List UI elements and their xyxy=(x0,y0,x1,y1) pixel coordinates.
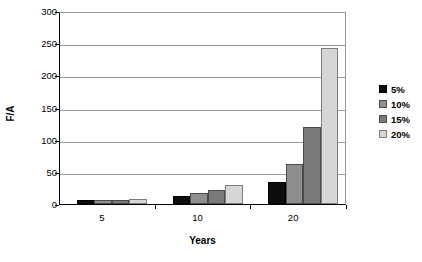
y-tick-label: 150 xyxy=(25,104,57,113)
plot-inner xyxy=(60,13,345,204)
legend-swatch-icon xyxy=(379,100,387,108)
y-tick-label: 300 xyxy=(25,7,57,16)
bar-20pct-year-10 xyxy=(225,185,243,204)
y-tick-mark xyxy=(55,109,59,110)
legend-label: 5% xyxy=(391,85,405,94)
bar-5pct-year-10 xyxy=(173,196,191,204)
y-tick-mark xyxy=(55,44,59,45)
x-tick-label: 20 xyxy=(273,212,313,223)
gridline xyxy=(60,77,345,78)
bar-20pct-year-5 xyxy=(129,199,147,204)
plot-area xyxy=(59,12,346,205)
bar-chart: F/A 050100150200250300 51020 Years 5%10%… xyxy=(0,0,422,262)
bar-15pct-year-10 xyxy=(208,190,226,204)
gridline xyxy=(60,45,345,46)
x-tick-mark xyxy=(346,205,347,209)
y-tick-mark xyxy=(55,12,59,13)
y-tick-label: 200 xyxy=(25,71,57,80)
legend-item-10pct: 10% xyxy=(379,98,410,110)
legend-swatch-icon xyxy=(379,130,387,138)
y-tick-label: 50 xyxy=(25,168,57,177)
gridline xyxy=(60,110,345,111)
legend-label: 10% xyxy=(391,100,410,109)
y-tick-label: 100 xyxy=(25,136,57,145)
bar-5pct-year-20 xyxy=(268,182,286,204)
legend-label: 20% xyxy=(391,130,410,139)
y-tick-mark xyxy=(55,76,59,77)
bar-5pct-year-5 xyxy=(77,200,95,204)
legend-item-15pct: 15% xyxy=(379,113,410,125)
y-tick-label: 250 xyxy=(25,39,57,48)
bar-10pct-year-5 xyxy=(94,200,112,204)
legend-label: 15% xyxy=(391,115,410,124)
bar-10pct-year-10 xyxy=(190,193,208,204)
y-tick-mark xyxy=(55,141,59,142)
bar-15pct-year-20 xyxy=(303,127,321,204)
y-tick-mark xyxy=(55,205,59,206)
legend-item-20pct: 20% xyxy=(379,128,410,140)
x-tick-label: 10 xyxy=(178,212,218,223)
bar-10pct-year-20 xyxy=(286,164,304,204)
y-axis-title: F/A xyxy=(5,90,16,138)
legend-item-5pct: 5% xyxy=(379,83,410,95)
y-tick-mark xyxy=(55,173,59,174)
legend: 5%10%15%20% xyxy=(379,83,410,143)
x-tick-mark xyxy=(155,205,156,209)
y-tick-label: 0 xyxy=(25,200,57,209)
x-tick-mark xyxy=(250,205,251,209)
legend-swatch-icon xyxy=(379,115,387,123)
x-axis-title: Years xyxy=(59,235,346,246)
bar-20pct-year-20 xyxy=(321,48,339,204)
bar-15pct-year-5 xyxy=(112,200,130,205)
legend-swatch-icon xyxy=(379,85,387,93)
x-tick-label: 5 xyxy=(82,212,122,223)
